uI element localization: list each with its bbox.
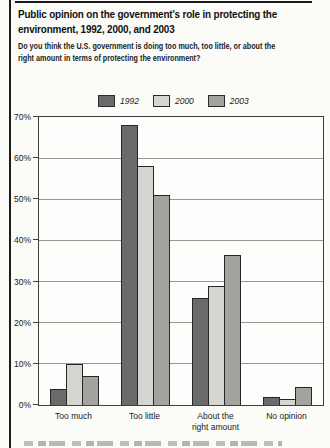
x-category-label: Too much	[38, 406, 109, 432]
y-tick-mark	[33, 198, 38, 199]
bar-1992	[263, 397, 280, 405]
x-axis: Too muchToo littleAbout theright amountN…	[38, 406, 322, 432]
bar-2000	[137, 166, 154, 405]
bar-group-too-little	[110, 117, 181, 405]
legend-item-2003: 2003	[208, 95, 249, 107]
bar-groups	[39, 117, 323, 405]
bar-1992	[121, 125, 138, 405]
bar-2003	[295, 387, 312, 406]
y-tick-mark	[33, 239, 38, 240]
legend-label-2000: 2000	[175, 96, 194, 106]
figure-title-line-1: Public opinion on the government's role …	[18, 7, 277, 22]
bar-chart: 70%60%50%40%30%20%10%0% Too muchToo litt…	[0, 116, 330, 448]
cropped-source-text-fragment	[24, 441, 282, 446]
y-tick-label: 20%	[0, 318, 31, 328]
legend-label-1992: 1992	[120, 96, 139, 106]
y-tick-mark	[33, 116, 38, 117]
bar-group-about-the-right-amount	[181, 117, 252, 405]
y-tick-label: 40%	[0, 235, 31, 245]
y-tick-label: 50%	[0, 194, 31, 204]
legend-swatch-2003	[208, 95, 225, 107]
bar-2003	[153, 195, 170, 405]
plot-area	[38, 116, 324, 406]
figure-subtitle-line-2: right amount in terms of protecting the …	[18, 52, 275, 64]
bar-2003	[82, 376, 99, 405]
legend-item-1992: 1992	[98, 95, 139, 107]
x-category-label-line: About the	[180, 411, 251, 422]
bar-2000	[66, 364, 83, 405]
y-tick-label: 0%	[0, 400, 31, 410]
figure-page: Public opinion on the government's role …	[0, 0, 330, 448]
bar-1992	[192, 298, 209, 405]
y-tick-mark	[33, 281, 38, 282]
legend-item-2000: 2000	[153, 95, 194, 107]
y-tick-mark	[33, 404, 38, 405]
bar-2000	[208, 286, 225, 405]
y-tick-mark	[33, 157, 38, 158]
y-tick-label: 60%	[0, 153, 31, 163]
bar-2000	[279, 399, 296, 405]
bar-1992	[50, 389, 67, 405]
figure-top-rule	[15, 1, 312, 3]
x-category-label: Too little	[109, 406, 180, 432]
chart-legend: 1992 2000 2003	[98, 95, 249, 107]
x-category-label: No opinion	[251, 406, 322, 432]
legend-label-2003: 2003	[230, 96, 249, 106]
x-category-label-line: Too much	[38, 411, 109, 422]
legend-swatch-1992	[98, 95, 115, 107]
x-category-label: About theright amount	[180, 406, 251, 432]
figure-subtitle-question: Do you think the U.S. government is doin…	[18, 40, 275, 64]
y-tick-mark	[33, 363, 38, 364]
bar-group-no-opinion	[252, 117, 323, 405]
y-tick-mark	[33, 322, 38, 323]
figure-title: Public opinion on the government's role …	[18, 7, 277, 37]
bar-2003	[224, 255, 241, 405]
y-tick-label: 70%	[0, 112, 31, 122]
figure-subtitle-line-1: Do you think the U.S. government is doin…	[18, 40, 275, 52]
x-category-label-line: Too little	[109, 411, 180, 422]
y-tick-label: 30%	[0, 277, 31, 287]
legend-swatch-2000	[153, 95, 170, 107]
y-tick-label: 10%	[0, 359, 31, 369]
x-category-label-line: right amount	[180, 422, 251, 433]
figure-title-line-2: environment, 1992, 2000, and 2003	[18, 22, 277, 37]
bar-group-too-much	[39, 117, 110, 405]
x-category-label-line: No opinion	[251, 411, 322, 422]
